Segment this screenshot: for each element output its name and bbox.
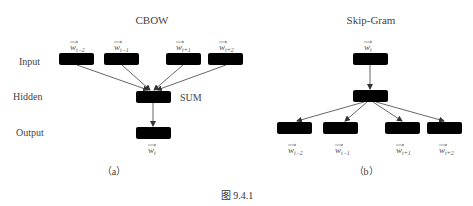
cbow-input-node: wt−1 [104, 42, 139, 65]
skipgram-output-node: wt−2 [277, 122, 312, 156]
word2vec-figure: CBOW Skip-Gram Input Hidden Output wt−2 … [0, 0, 473, 206]
svg-text:wt+1: wt+1 [176, 42, 191, 53]
skipgram-hidden-node [353, 90, 388, 102]
cbow-input-node: wt−2 [59, 42, 94, 65]
skipgram-title: Skip-Gram [347, 14, 396, 26]
sum-label: SUM [180, 92, 202, 103]
svg-text:wt+2: wt+2 [439, 145, 454, 156]
svg-text:wt−2: wt−2 [70, 42, 85, 53]
row-label-input: Input [19, 56, 40, 67]
svg-text:wt−1: wt−1 [335, 145, 350, 156]
cbow-hidden-node [136, 91, 171, 103]
panel-label-a: （a） [102, 166, 126, 177]
skipgram-output-node: wt+1 [385, 122, 420, 156]
cbow-title: CBOW [136, 14, 170, 26]
figure-caption: 图 9.4.1 [221, 190, 254, 201]
svg-text:wt: wt [148, 145, 156, 156]
svg-text:wt+1: wt+1 [396, 145, 411, 156]
cbow-output-node: wt [136, 127, 171, 156]
vector-arrow-icons [70, 41, 227, 43]
skipgram-input-node: wt [353, 41, 388, 65]
cbow-input-node: wt+2 [208, 42, 243, 65]
svg-text:wt−2: wt−2 [288, 145, 303, 156]
skipgram-output-node: wt−1 [323, 122, 358, 156]
svg-text:wt+2: wt+2 [219, 42, 234, 53]
cbow-input-node: wt+1 [166, 42, 201, 65]
skipgram-output-node: wt+2 [427, 122, 462, 156]
panel-label-b: （b） [354, 166, 379, 177]
row-label-hidden: Hidden [13, 91, 42, 102]
svg-text:wt: wt [364, 42, 372, 53]
svg-text:wt−1: wt−1 [114, 42, 129, 53]
row-label-output: Output [16, 127, 44, 138]
